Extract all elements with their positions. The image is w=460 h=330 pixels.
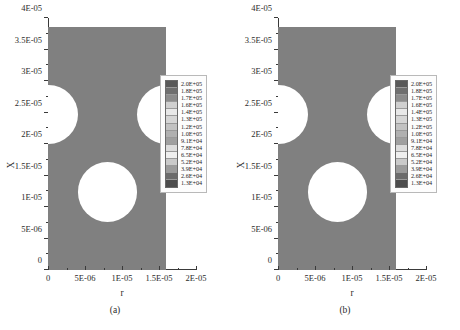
y-tick-label-b-3: 1.5E-05 — [245, 161, 272, 171]
panel-caption-b: (b) — [230, 305, 460, 315]
colorbar-label-b-13: 2.6E+04 — [411, 172, 432, 179]
y-tick-label-a-3: 1.5E-05 — [15, 161, 42, 171]
colorbar-label-a-8: 9.1E+04 — [181, 137, 202, 144]
y-tick-b-1 — [274, 238, 278, 239]
x-tick-minor-b-3 — [408, 268, 409, 270]
colorbar-swatch-b-5 — [396, 116, 407, 123]
colorbar-legend-b: 2.0E+05 1.8E+05 1.7E+05 1.6E+05 1.4E+05 … — [390, 75, 437, 193]
colorbar-swatch-a-11 — [166, 159, 177, 166]
y-tick-a-4 — [44, 143, 48, 144]
y-tick-minor-a-5 — [46, 96, 48, 97]
panel-b: X 0 5E-06 1E-05 1.5E-05 2E-0 — [230, 0, 460, 330]
colorbar-swatch-b-4 — [396, 109, 407, 116]
y-tick-minor-b-3 — [276, 159, 278, 160]
colorbar-label-b-6: 1.2E+05 — [411, 123, 432, 130]
domain-fill-a — [48, 27, 166, 270]
y-tick-a-3 — [44, 175, 48, 176]
colorbar-label-a-4: 1.4E+05 — [181, 108, 202, 115]
colorbar-label-a-13: 2.6E+04 — [181, 172, 202, 179]
colorbar-label-b-4: 1.4E+05 — [411, 108, 432, 115]
x-tick-a-0 — [48, 266, 49, 270]
y-tick-minor-b-2 — [276, 190, 278, 191]
y-tick-minor-b-7 — [276, 33, 278, 34]
y-tick-label-a-6: 3E-05 — [21, 66, 42, 76]
colorbar-label-a-2: 1.7E+05 — [181, 94, 202, 101]
y-tick-a-5 — [44, 112, 48, 113]
colorbar-label-b-3: 1.6E+05 — [411, 101, 432, 108]
colorbar-swatch-a-3 — [166, 102, 177, 109]
y-tick-minor-b-0 — [276, 253, 278, 254]
colorbar-label-b-14: 1.3E+04 — [411, 179, 432, 186]
colorbar-swatch-a-0 — [166, 81, 177, 88]
x-tick-minor-a-2 — [141, 268, 142, 270]
colorbar-label-a-9: 7.8E+04 — [181, 144, 202, 151]
colorbar-swatch-a-1 — [166, 88, 177, 95]
y-tick-b-5 — [274, 112, 278, 113]
colorbar-swatch-a-12 — [166, 166, 177, 173]
colorbar-labels-a: 2.0E+05 1.8E+05 1.7E+05 1.6E+05 1.4E+05 … — [181, 80, 202, 188]
colorbar-swatch-b-0 — [396, 81, 407, 88]
y-tick-minor-b-4 — [276, 127, 278, 128]
y-tick-minor-a-0 — [46, 253, 48, 254]
x-tick-b-3 — [389, 266, 390, 270]
y-tick-label-a-1: 5E-06 — [21, 224, 42, 234]
colorbar-swatch-b-1 — [396, 88, 407, 95]
colorbar-label-a-12: 3.9E+04 — [181, 165, 202, 172]
colorbar-label-b-10: 6.5E+04 — [411, 151, 432, 158]
x-tick-a-2 — [122, 266, 123, 270]
x-tick-minor-b-0 — [297, 268, 298, 270]
colorbar-label-b-8: 9.1E+04 — [411, 137, 432, 144]
y-tick-label-b-4: 2E-05 — [251, 129, 272, 139]
x-tick-a-3 — [159, 266, 160, 270]
y-tick-minor-a-2 — [46, 190, 48, 191]
colorbar-label-a-14: 1.3E+04 — [181, 179, 202, 186]
colorbar-label-b-11: 5.2E+04 — [411, 158, 432, 165]
colorbar-swatch-a-9 — [166, 145, 177, 152]
x-tick-minor-a-3 — [178, 268, 179, 270]
y-tick-label-b-0: 0 — [268, 255, 272, 265]
colorbar-label-b-9: 7.8E+04 — [411, 144, 432, 151]
y-tick-a-1 — [44, 238, 48, 239]
void-circle-center-b — [308, 162, 367, 221]
y-tick-b-3 — [274, 175, 278, 176]
colorbar-swatch-a-13 — [166, 173, 177, 180]
x-tick-label-b-2: 1E-05 — [342, 273, 363, 283]
x-tick-b-0 — [278, 266, 279, 270]
y-tick-b-2 — [274, 206, 278, 207]
colorbar-swatch-b-14 — [396, 180, 407, 187]
x-tick-minor-a-0 — [67, 268, 68, 270]
y-tick-b-7 — [274, 49, 278, 50]
colorbar-label-a-1: 1.8E+05 — [181, 87, 202, 94]
y-tick-label-a-7: 3.5E-05 — [15, 35, 42, 45]
x-tick-minor-b-1 — [334, 268, 335, 270]
x-tick-b-2 — [352, 266, 353, 270]
y-tick-label-b-6: 3E-05 — [251, 66, 272, 76]
y-tick-b-8 — [274, 17, 278, 18]
colorbar-label-a-5: 1.3E+05 — [181, 115, 202, 122]
colorbar-swatch-b-10 — [396, 152, 407, 159]
colorbar-labels-b: 2.0E+05 1.8E+05 1.7E+05 1.6E+05 1.4E+05 … — [411, 80, 432, 188]
colorbar-label-b-0: 2.0E+05 — [411, 80, 432, 87]
colorbar-legend-a: 2.0E+05 1.8E+05 1.7E+05 1.6E+05 1.4E+05 … — [160, 75, 207, 193]
colorbar-label-a-10: 6.5E+04 — [181, 151, 202, 158]
colorbar-label-a-7: 1.0E+05 — [181, 130, 202, 137]
colorbar-swatch-b-7 — [396, 131, 407, 138]
colorbar-swatches-a — [165, 80, 178, 188]
x-tick-label-a-4: 2E-05 — [186, 273, 207, 283]
colorbar-label-b-7: 1.0E+05 — [411, 130, 432, 137]
colorbar-label-b-12: 3.9E+04 — [411, 165, 432, 172]
x-tick-minor-b-2 — [371, 268, 372, 270]
y-tick-minor-a-4 — [46, 127, 48, 128]
colorbar-swatch-b-12 — [396, 166, 407, 173]
y-tick-label-a-5: 2.5E-05 — [15, 98, 42, 108]
domain-region-a — [48, 27, 166, 270]
x-tick-label-a-3: 1.5E-05 — [145, 273, 172, 283]
colorbar-swatch-a-2 — [166, 95, 177, 102]
y-tick-minor-b-6 — [276, 64, 278, 65]
colorbar-swatch-b-11 — [396, 159, 407, 166]
x-tick-label-a-2: 1E-05 — [112, 273, 133, 283]
y-tick-label-b-8: 4E-05 — [251, 3, 272, 13]
y-tick-a-2 — [44, 206, 48, 207]
x-tick-a-1 — [85, 266, 86, 270]
y-tick-label-b-5: 2.5E-05 — [245, 98, 272, 108]
